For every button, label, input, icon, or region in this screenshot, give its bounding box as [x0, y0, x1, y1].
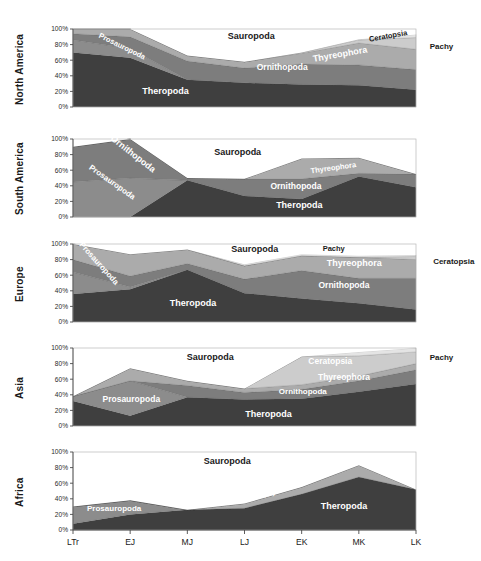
- annotation-sauropoda: Sauropoda: [231, 244, 279, 254]
- area-pachy: [73, 139, 416, 179]
- y-tick-label: 0%: [58, 422, 68, 429]
- y-tick-label: 40%: [55, 182, 68, 189]
- y-tick-label: 20%: [55, 407, 68, 414]
- area-pachy: [73, 348, 416, 396]
- y-tick-label: 0%: [58, 103, 68, 110]
- y-tick-label: 0%: [58, 213, 68, 220]
- area-thyreophora: [73, 465, 416, 509]
- plot-frame: [73, 244, 416, 322]
- panel-region-label-asia: Asia: [14, 346, 25, 430]
- area-ceratopsia: [73, 244, 416, 266]
- panel-region-label-africa: Africa: [14, 450, 25, 534]
- stacked-areas: [73, 348, 416, 426]
- area-annotations: TheropodaProsauropodaSauropodaOrnithopod…: [97, 28, 454, 96]
- annotation-sauropoda: Sauropoda: [204, 456, 252, 466]
- annotation-pachy: Pachy: [430, 353, 454, 362]
- annotation-thyreophora: Thyreophora: [312, 44, 369, 64]
- stacked-areas: [73, 29, 416, 107]
- area-thyreophora: [73, 364, 416, 397]
- panel-region-label-europe: Europe: [14, 242, 25, 326]
- y-tick-label: 100%: [51, 344, 68, 351]
- y-tick-label: 80%: [55, 41, 68, 48]
- stacked-areas: [73, 244, 416, 322]
- area-ornithopoda: [73, 477, 416, 510]
- plot-frame: [73, 348, 416, 426]
- annotation-prosauropoda: Prosauropoda: [97, 31, 147, 62]
- area-ornithopoda: [73, 139, 416, 199]
- y-tick-label: 40%: [55, 287, 68, 294]
- y-tick-label: 40%: [55, 391, 68, 398]
- annotation-theropoda: Theropoda: [170, 298, 217, 308]
- panel-region-label-north-america: North America: [14, 27, 25, 111]
- y-tick-label: 60%: [55, 57, 68, 64]
- x-tick-label-mk: MK: [352, 537, 365, 547]
- area-theropoda: [73, 52, 416, 107]
- area-annotations: SauropodaProsauropodaTheropodaCeratopsia…: [102, 352, 453, 419]
- annotation-ceratopsia: Ceratopsia: [308, 356, 352, 366]
- y-axis: 0%20%40%60%80%100%: [51, 240, 73, 325]
- area-sauropoda: [73, 244, 416, 264]
- annotation-sauropoda: Sauropoda: [187, 352, 235, 362]
- y-tick-label: 60%: [55, 272, 68, 279]
- plot-frame: [73, 139, 416, 217]
- annotation-ornithopoda: Ornithopoda: [270, 181, 321, 191]
- y-tick-label: 80%: [55, 256, 68, 263]
- area-theropoda: [73, 270, 416, 322]
- area-thyreophora: [73, 244, 416, 279]
- annotation-ornithopoda: Ornithopoda: [318, 280, 369, 290]
- annotation-prosauropoda: Prosauropoda: [77, 240, 120, 287]
- area-ornithopoda: [73, 370, 416, 400]
- annotation-prosauropoda: Prosauropoda: [102, 394, 160, 404]
- annotation-thyreophora: Thyreophora: [310, 160, 357, 175]
- x-tick-label-lj: LJ: [240, 537, 249, 547]
- area-ceratopsia: [73, 29, 416, 62]
- area-sauropoda: [73, 29, 416, 62]
- area-pachy: [73, 465, 416, 509]
- plot-frame: [73, 452, 416, 530]
- area-annotations: OrnithopodaProsauropodaSauropodaThyreoph…: [87, 456, 368, 513]
- annotation-theropoda: Theropoda: [321, 501, 368, 511]
- annotation-theropoda: Theropoda: [276, 200, 323, 210]
- area-theropoda: [73, 384, 416, 426]
- annotation-ornithopoda: Ornithopoda: [279, 387, 328, 396]
- area-sauropoda: [73, 348, 416, 396]
- area-prosauropoda: [73, 381, 416, 416]
- area-ceratopsia: [73, 465, 416, 509]
- y-axis: 0%20%40%60%80%100%: [51, 25, 73, 110]
- x-tick-label-ej: EJ: [125, 537, 135, 547]
- y-tick-label: 100%: [51, 448, 68, 455]
- annotation-theropoda: Theropoda: [142, 86, 189, 96]
- y-tick-label: 20%: [55, 303, 68, 310]
- annotation-prosauropoda: Prosauropoda: [87, 163, 137, 202]
- area-ceratopsia: [73, 352, 416, 396]
- y-tick-label: 0%: [58, 318, 68, 325]
- y-tick-label: 60%: [55, 167, 68, 174]
- stacked-areas: [73, 139, 416, 217]
- area-ornithopoda: [73, 260, 416, 310]
- y-tick-label: 60%: [55, 376, 68, 383]
- y-axis: 0%20%40%60%80%100%: [51, 448, 73, 533]
- y-tick-label: 20%: [55, 511, 68, 518]
- y-tick-label: 0%: [58, 526, 68, 533]
- y-tick-label: 80%: [55, 464, 68, 471]
- annotation-ceratopsia: Ceratopsia: [433, 257, 475, 266]
- plot-frame: [73, 29, 416, 107]
- y-tick-label: 100%: [51, 25, 68, 32]
- area-prosauropoda: [73, 477, 416, 524]
- area-thyreophora: [73, 139, 416, 179]
- area-ceratopsia: [73, 139, 416, 179]
- annotation-ornithopoda: Ornithopoda: [257, 62, 308, 72]
- annotation-theropoda: Theropoda: [245, 409, 292, 419]
- y-tick-label: 100%: [51, 240, 68, 247]
- stacked-areas: [73, 452, 416, 530]
- x-axis: LTrEJMJLJEKMKLK: [67, 530, 421, 547]
- y-tick-label: 40%: [55, 495, 68, 502]
- annotation-prosauropoda: Prosauropoda: [87, 504, 142, 513]
- annotation-ceratopsia: Ceratopsia: [368, 28, 409, 44]
- x-tick-label-lk: LK: [411, 537, 422, 547]
- y-tick-label: 20%: [55, 198, 68, 205]
- area-pachy: [73, 244, 416, 266]
- area-annotations: ProsauropodaTheropodaSauropodaPachyThyre…: [77, 240, 475, 308]
- area-thyreophora: [73, 29, 416, 70]
- annotation-sauropoda: Sauropoda: [214, 147, 262, 157]
